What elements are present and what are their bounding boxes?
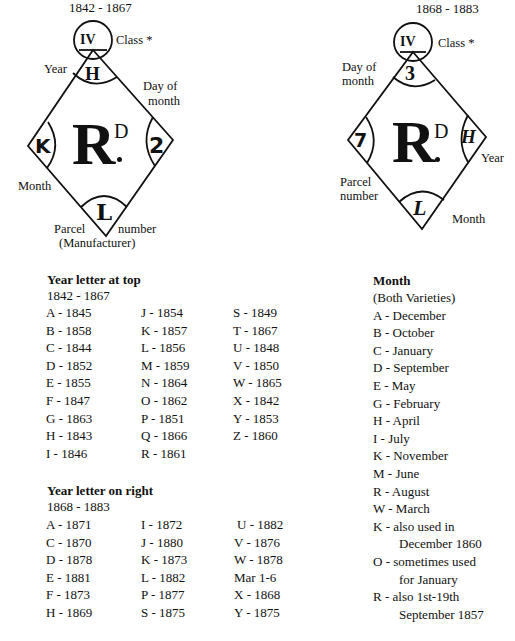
year-entry: M - 1859 xyxy=(141,357,189,375)
right-center-dot xyxy=(435,157,440,162)
left-label-number: number xyxy=(118,223,156,236)
year-right-column-3: U - 1882 V - 1876 W - 1878 Mar 1-6 X - 1… xyxy=(234,516,283,622)
year-entry: W - 1865 xyxy=(233,374,282,392)
year-entry: X - 1842 xyxy=(233,392,282,410)
month-entry: D - September xyxy=(373,359,484,377)
year-entry: U - 1848 xyxy=(233,339,282,357)
year-entry: V - 1850 xyxy=(233,357,282,375)
year-entry: A - 1845 xyxy=(46,304,92,322)
year-entry: V - 1876 xyxy=(234,534,283,552)
left-center-dot xyxy=(117,157,122,162)
month-entry: I - July xyxy=(373,430,484,448)
year-entry: O - 1862 xyxy=(141,392,189,410)
year-right-heading: Year letter on right xyxy=(47,483,153,499)
left-diagram-period: 1842 - 1867 xyxy=(69,0,132,16)
year-entry: A - 1871 xyxy=(46,516,92,534)
year-entry: E - 1855 xyxy=(46,374,92,392)
year-entry: C - 1870 xyxy=(46,534,92,552)
right-label-day-of: Day of xyxy=(342,61,376,74)
year-top-period: 1842 - 1867 xyxy=(47,287,110,305)
right-center-superscript: D xyxy=(434,120,448,143)
year-right-column-1: A - 1871 C - 1870 D - 1878 E - 1881 F - … xyxy=(46,516,92,622)
left-class-label: Class * xyxy=(116,34,152,47)
year-entry: I - 1872 xyxy=(141,516,187,534)
left-label-year: Year xyxy=(44,63,67,76)
right-diagram-period: 1868 - 1883 xyxy=(416,1,479,17)
year-right-period: 1868 - 1883 xyxy=(47,498,110,516)
month-note: R - also 1st-19th xyxy=(373,588,484,606)
month-entry: G - February xyxy=(373,395,484,413)
year-entry: F - 1873 xyxy=(46,586,92,604)
month-entry: W - March xyxy=(373,500,484,518)
year-entry: Mar 1-6 xyxy=(234,569,283,587)
month-note: O - sometimes used xyxy=(373,553,484,571)
year-top-heading: Year letter at top xyxy=(47,272,141,288)
right-class-numeral: IV xyxy=(400,34,416,50)
year-entry: X - 1868 xyxy=(234,586,283,604)
month-note-continuation: September 1857 xyxy=(373,606,484,624)
year-entry: Y - 1875 xyxy=(234,604,283,622)
year-entry: L - 1856 xyxy=(141,339,189,357)
month-entry: E - May xyxy=(373,377,484,395)
month-entry: A - December xyxy=(373,307,484,325)
year-top-column-1: A - 1845 B - 1858 C - 1844 D - 1852 E - … xyxy=(46,304,92,462)
year-top-column-2: J - 1854 K - 1857 L - 1856 M - 1859 N - … xyxy=(141,304,189,462)
year-entry: H - 1843 xyxy=(46,427,92,445)
year-entry: F - 1847 xyxy=(46,392,92,410)
right-year-letter: H xyxy=(461,126,476,148)
left-label-day-of: Day of xyxy=(143,80,177,93)
right-label-month: Month xyxy=(452,213,485,226)
year-entry: L - 1882 xyxy=(141,569,187,587)
left-parcel-letter: L xyxy=(96,198,112,225)
left-month-letter: K xyxy=(35,134,51,158)
year-right-column-2: I - 1872 J - 1880 K - 1873 L - 1882 P - … xyxy=(141,516,187,622)
year-entry: R - 1861 xyxy=(141,445,189,463)
month-list: (Both Varieties) A - December B - Octobe… xyxy=(373,289,484,623)
year-entry: J - 1880 xyxy=(141,534,187,552)
left-class-numeral: IV xyxy=(80,32,96,48)
right-center-r: R xyxy=(392,112,435,172)
left-label-parcel: Parcel xyxy=(54,223,85,236)
right-parcel-number: 7 xyxy=(354,129,367,151)
month-entry: M - June xyxy=(373,465,484,483)
year-entry: Q - 1866 xyxy=(141,427,189,445)
month-entry: C - January xyxy=(373,342,484,360)
month-heading: Month xyxy=(373,273,411,289)
year-entry: Y - 1853 xyxy=(233,410,282,428)
year-entry: H - 1869 xyxy=(46,604,92,622)
year-entry: Z - 1860 xyxy=(233,427,282,445)
right-label-year: Year xyxy=(481,152,504,165)
year-entry: S - 1849 xyxy=(233,304,282,322)
month-subheading: (Both Varieties) xyxy=(373,289,484,307)
left-day-number: 2 xyxy=(149,133,164,158)
left-center-superscript: D xyxy=(114,120,128,143)
left-label-month: Month xyxy=(18,180,51,193)
year-entry: G - 1863 xyxy=(46,410,92,428)
left-year-letter: H xyxy=(85,63,100,85)
left-center-r: R xyxy=(72,114,115,174)
month-entry: B - October xyxy=(373,324,484,342)
left-label-month-word: month xyxy=(148,95,180,108)
year-entry: J - 1854 xyxy=(141,304,189,322)
right-month-letter: L xyxy=(413,195,426,221)
month-note-continuation: for January xyxy=(373,571,484,589)
right-class-label: Class * xyxy=(438,37,474,50)
year-entry: T - 1867 xyxy=(233,322,282,340)
year-entry: D - 1878 xyxy=(46,551,92,569)
year-entry: N - 1864 xyxy=(141,374,189,392)
month-note-continuation: December 1860 xyxy=(373,535,484,553)
year-entry: W - 1878 xyxy=(234,551,283,569)
year-entry: U - 1882 xyxy=(234,516,283,534)
year-top-column-3: S - 1849 T - 1867 U - 1848 V - 1850 W - … xyxy=(233,304,282,445)
right-label-month-word: month xyxy=(342,75,374,88)
left-label-manufacturer: (Manufacturer) xyxy=(59,237,135,250)
right-label-number: number xyxy=(340,190,378,203)
year-entry: D - 1852 xyxy=(46,357,92,375)
year-entry: K - 1857 xyxy=(141,322,189,340)
year-entry: S - 1875 xyxy=(141,604,187,622)
year-entry: C - 1844 xyxy=(46,339,92,357)
month-entry: K - November xyxy=(373,447,484,465)
year-entry: P - 1877 xyxy=(141,586,187,604)
month-note: K - also used in xyxy=(373,518,484,536)
month-entry: H - April xyxy=(373,412,484,430)
